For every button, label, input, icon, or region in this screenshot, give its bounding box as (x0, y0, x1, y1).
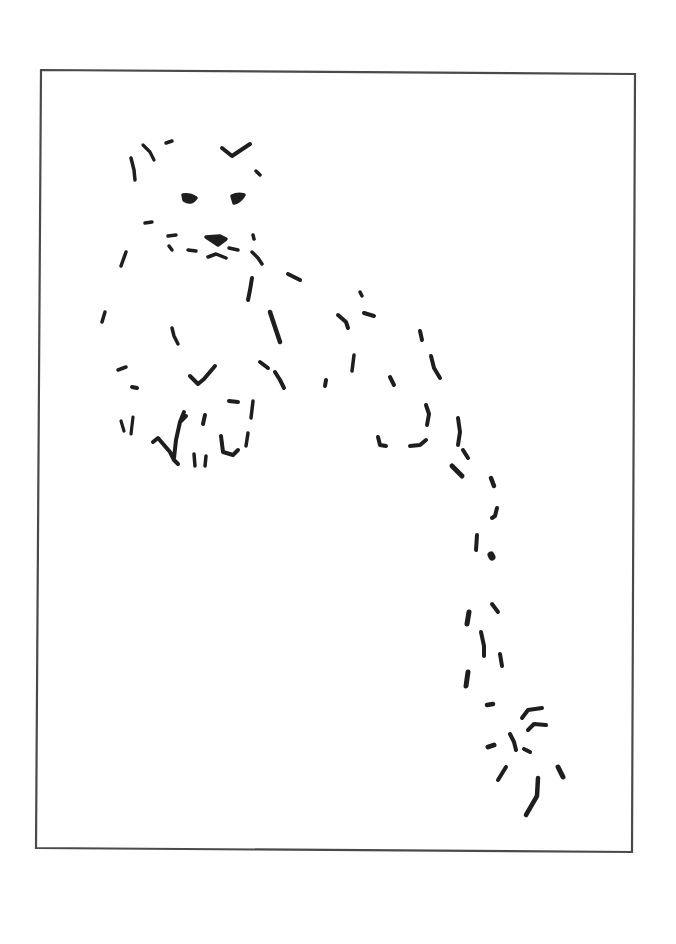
background (0, 0, 676, 944)
stroke-tail-2 (491, 478, 494, 486)
stroke-back-1 (360, 292, 362, 296)
stroke-tail-9 (500, 654, 502, 666)
stroke-toe-6 (246, 433, 248, 446)
stroke-toe-2 (131, 417, 133, 434)
stroke-tail-tip-5 (524, 749, 530, 752)
stroke-nose-right (229, 248, 238, 250)
stroke-paw-mark-2 (132, 387, 137, 388)
stroke-tail-tip-4 (488, 745, 494, 747)
stroke-paw-line (251, 401, 253, 418)
stroke-paw-dash (229, 401, 238, 402)
stroke-tail-5 (491, 555, 492, 557)
stroke-hip-1 (420, 331, 422, 340)
stroke-whisker-l2 (169, 246, 172, 250)
stroke-ear-left-tip (166, 141, 172, 143)
stroke-tail-11 (487, 704, 493, 705)
stroke-whisker-r (253, 235, 254, 239)
stroke-hind-2 (458, 418, 460, 445)
stroke-whisker-l3 (188, 250, 196, 251)
leopard-sketch (0, 0, 676, 944)
stroke-whisker-l1 (168, 235, 176, 236)
stroke-eye-left (183, 195, 196, 202)
stroke-cheek-dot (145, 222, 152, 223)
stroke-tail-4 (476, 535, 477, 550)
stroke-toe-3 (203, 415, 205, 424)
stroke-flank-1 (352, 355, 354, 371)
stroke-tail-10 (466, 672, 468, 686)
stroke-flank-2 (325, 380, 326, 386)
stroke-tail-7 (467, 612, 469, 624)
